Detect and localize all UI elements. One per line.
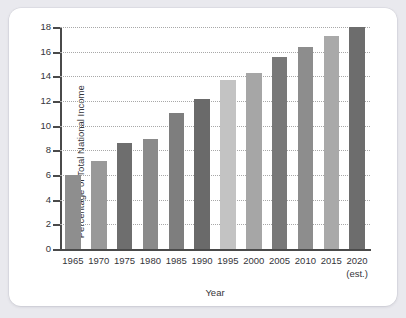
y-tick-label: 0 xyxy=(46,244,51,254)
bar xyxy=(65,175,81,249)
bar xyxy=(194,99,210,249)
y-tick-mark xyxy=(53,175,60,177)
bar xyxy=(349,27,365,249)
bar xyxy=(298,47,314,249)
y-tick-mark xyxy=(53,76,60,78)
bar xyxy=(117,143,133,249)
page-background: Percentage of Total National Income 0246… xyxy=(0,0,406,318)
x-tick-label: 2010 xyxy=(295,256,316,266)
y-tick-label: 12 xyxy=(40,96,51,106)
bar-series xyxy=(60,27,370,249)
y-tick-label: 18 xyxy=(40,22,51,32)
bar xyxy=(143,139,159,249)
x-tick-label: 1980 xyxy=(140,256,161,266)
bar xyxy=(220,80,236,249)
x-tick-label: 2020 xyxy=(347,256,368,266)
chart-card: Percentage of Total National Income 0246… xyxy=(9,8,397,306)
x-tick-label: 1970 xyxy=(88,256,109,266)
bar-chart: Percentage of Total National Income 0246… xyxy=(9,8,397,306)
bar xyxy=(246,73,262,249)
x-tick-label: 1990 xyxy=(192,256,213,266)
y-tick-label: 10 xyxy=(40,121,51,131)
x-axis-line xyxy=(60,249,371,251)
bar xyxy=(91,161,107,249)
bar xyxy=(272,57,288,249)
y-tick-label: 16 xyxy=(40,47,51,57)
y-tick-mark xyxy=(53,150,60,152)
bar xyxy=(169,113,185,249)
x-tick-label: 2015 xyxy=(321,256,342,266)
y-tick-mark xyxy=(53,101,60,103)
y-tick-mark xyxy=(53,52,60,54)
y-tick-label: 4 xyxy=(46,195,51,205)
x-tick-label: 1965 xyxy=(62,256,83,266)
x-tick-label: 2005 xyxy=(269,256,290,266)
x-tick-label: 1995 xyxy=(217,256,238,266)
y-tick-mark xyxy=(53,27,60,29)
y-tick-mark xyxy=(53,249,60,251)
y-tick-mark xyxy=(53,126,60,128)
y-tick-label: 6 xyxy=(46,170,51,180)
y-tick-label: 8 xyxy=(46,146,51,156)
x-tick-label: 2000 xyxy=(243,256,264,266)
x-tick-label: 1985 xyxy=(166,256,187,266)
x-tick-sublabel: (est.) xyxy=(346,269,368,279)
x-tick-label: 1975 xyxy=(114,256,135,266)
y-tick-label: 14 xyxy=(40,72,51,82)
bar xyxy=(324,36,340,249)
y-tick-mark xyxy=(53,200,60,202)
y-tick-label: 2 xyxy=(46,220,51,230)
y-tick-mark xyxy=(53,224,60,226)
x-axis-title: Year xyxy=(60,288,370,298)
